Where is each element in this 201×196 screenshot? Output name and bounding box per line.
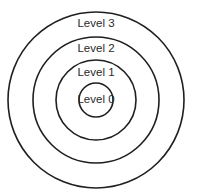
label-level-3: Level 3	[77, 17, 114, 29]
label-level-0: Level 0	[77, 93, 114, 105]
label-level-2: Level 2	[77, 42, 114, 54]
label-level-1: Level 1	[77, 66, 114, 78]
concentric-levels-diagram: Level 3 Level 2 Level 1 Level 0	[0, 0, 201, 196]
